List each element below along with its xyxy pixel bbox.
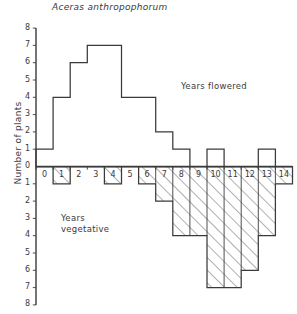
x-tick-6: 6 bbox=[138, 170, 156, 179]
y-tick-up-7: 7 bbox=[16, 40, 30, 49]
y-tick-up-6: 6 bbox=[16, 57, 30, 66]
y-tick-down-1: 1 bbox=[16, 178, 30, 187]
y-tick-down-8: 8 bbox=[16, 299, 30, 308]
plot-area bbox=[0, 0, 297, 314]
x-tick-5: 5 bbox=[121, 170, 139, 179]
chart-container: Aceras anthropophorum Number of plants Y… bbox=[0, 0, 297, 314]
y-tick-up-8: 8 bbox=[16, 23, 30, 32]
x-tick-13: 13 bbox=[258, 170, 276, 179]
y-tick-down-7: 7 bbox=[16, 282, 30, 291]
y-tick-down-2: 2 bbox=[16, 196, 30, 205]
y-tick-down-5: 5 bbox=[16, 248, 30, 257]
x-tick-7: 7 bbox=[155, 170, 173, 179]
y-tick-down-6: 6 bbox=[16, 265, 30, 274]
y-tick-up-1: 1 bbox=[16, 144, 30, 153]
x-tick-4: 4 bbox=[104, 170, 122, 179]
series-years-vegetative bbox=[36, 167, 293, 288]
x-tick-0: 0 bbox=[36, 170, 54, 179]
x-tick-11: 11 bbox=[224, 170, 242, 179]
y-tick-down-3: 3 bbox=[16, 213, 30, 222]
y-tick-down-4: 4 bbox=[16, 230, 30, 239]
y-tick-up-4: 4 bbox=[16, 92, 30, 101]
x-tick-8: 8 bbox=[172, 170, 190, 179]
x-tick-12: 12 bbox=[241, 170, 259, 179]
series-years-flowered bbox=[36, 45, 293, 166]
x-tick-1: 1 bbox=[53, 170, 71, 179]
y-tick-zero: 0 bbox=[16, 161, 30, 170]
x-tick-2: 2 bbox=[70, 170, 88, 179]
x-tick-3: 3 bbox=[87, 170, 105, 179]
series-layer bbox=[36, 45, 293, 287]
x-tick-9: 9 bbox=[189, 170, 207, 179]
y-tick-up-3: 3 bbox=[16, 109, 30, 118]
y-tick-up-5: 5 bbox=[16, 75, 30, 84]
y-tick-up-2: 2 bbox=[16, 126, 30, 135]
x-tick-14: 14 bbox=[275, 170, 293, 179]
x-tick-10: 10 bbox=[207, 170, 225, 179]
